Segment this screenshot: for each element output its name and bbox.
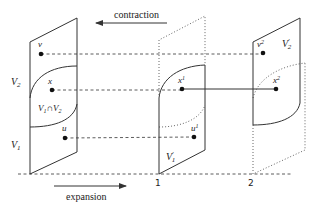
point-x1: x1: [177, 75, 185, 91]
contraction-label: contraction: [114, 9, 159, 20]
point-v-label: v: [38, 39, 42, 49]
point-u1-label: u1: [191, 123, 199, 133]
point-x2-label: x2: [272, 75, 280, 85]
point-u1: u1: [191, 123, 199, 139]
middle-panel: V′1: [159, 16, 205, 174]
expansion-contraction-diagram: contraction expansion 1 2 V2 V1 V1∩V2 V′…: [0, 0, 315, 208]
intersection-label: V1∩V2: [38, 103, 62, 114]
point-x: x: [47, 76, 54, 92]
point-v2-label: v2: [257, 39, 264, 49]
v1-prime-label: V′1: [166, 150, 175, 164]
axis-tick-1: 1: [155, 178, 161, 188]
expansion-label: expansion: [66, 191, 107, 202]
point-v: v: [38, 39, 43, 56]
point-u: u: [62, 123, 67, 140]
point-u-label: u: [62, 123, 67, 133]
left-panel: V2 V1 V1∩V2: [11, 18, 77, 174]
point-x-label: x: [47, 76, 52, 86]
axis-tick-2: 2: [248, 178, 254, 188]
contraction-arrow: contraction: [96, 9, 167, 23]
expansion-arrow: expansion: [54, 186, 126, 202]
v2-prime-label: V′2: [282, 37, 292, 51]
point-x1-label: x1: [177, 75, 185, 85]
v1-label: V1: [11, 139, 21, 152]
v2-label: V2: [11, 76, 21, 89]
u-to-u1-line: [65, 137, 194, 138]
point-v2: v2: [257, 39, 265, 55]
